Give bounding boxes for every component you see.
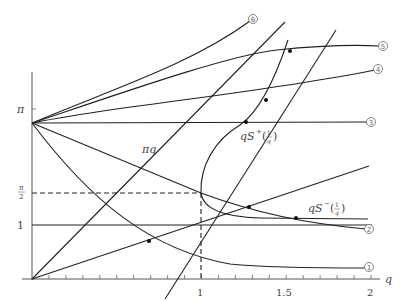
svg-text:3: 3 xyxy=(369,119,373,127)
label-qS-minus: qS − ( 1 q ) xyxy=(308,200,345,217)
svg-text:): ) xyxy=(341,202,345,215)
svg-text:(: ( xyxy=(330,202,334,215)
svg-text:π: π xyxy=(19,184,24,192)
diagram-canvas: π π 2 1 1 1.5 2 q πq qS + ( 1 q ) qS − (… xyxy=(0,0,410,301)
svg-text:6: 6 xyxy=(251,16,256,24)
svg-text:1: 1 xyxy=(267,129,271,136)
x-label-1: 1 xyxy=(197,287,203,298)
curve-marker-4: 4 xyxy=(374,65,383,74)
curve-marker-1: 1 xyxy=(365,263,374,272)
svg-text:q: q xyxy=(267,137,271,145)
svg-text:2: 2 xyxy=(19,193,23,201)
x-label-2: 2 xyxy=(367,287,373,298)
svg-text:5: 5 xyxy=(381,43,385,51)
line-pi-q xyxy=(32,22,285,279)
svg-text:4: 4 xyxy=(376,66,381,74)
x-label-1-5: 1.5 xyxy=(276,287,292,298)
svg-text:2: 2 xyxy=(367,226,371,234)
curve-marker-5: 5 xyxy=(379,42,388,51)
curve-marker-6: 6 xyxy=(249,15,258,24)
curve-6 xyxy=(32,21,250,123)
intersection-points xyxy=(147,49,298,243)
x-axis-ticks xyxy=(49,275,371,279)
curve-4 xyxy=(32,70,375,123)
curve-marker-3: 3 xyxy=(367,118,376,127)
svg-text:1: 1 xyxy=(335,201,339,208)
svg-text:qS: qS xyxy=(308,202,323,215)
svg-text:q: q xyxy=(335,209,339,217)
line-shallow-origin xyxy=(32,166,369,279)
svg-text:(: ( xyxy=(262,130,266,143)
svg-text:qS: qS xyxy=(240,130,255,143)
label-pi-q: πq xyxy=(141,143,156,156)
svg-text:1: 1 xyxy=(367,264,371,272)
curve-5 xyxy=(32,45,380,123)
svg-text:): ) xyxy=(273,130,277,143)
curve-marker-2: 2 xyxy=(365,225,374,234)
y-label-1: 1 xyxy=(17,219,24,232)
x-axis-title-q: q xyxy=(385,273,392,286)
curve-3 xyxy=(32,122,370,123)
y-label-pi: π xyxy=(16,103,25,116)
y-label-pi-over-2: π 2 xyxy=(18,184,25,201)
